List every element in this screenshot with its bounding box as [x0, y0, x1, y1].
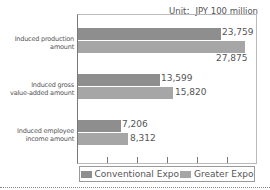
legend-swatch	[81, 171, 92, 178]
category-line: income amount	[0, 135, 74, 143]
bar	[78, 41, 245, 53]
bar	[78, 120, 121, 132]
category-line: amount	[0, 43, 74, 51]
bar	[78, 28, 221, 40]
dotted-divider	[0, 187, 270, 188]
category-label: Induced employeeincome amount	[0, 127, 74, 143]
bar	[78, 133, 128, 145]
bar	[78, 74, 160, 86]
legend-swatch	[180, 171, 191, 178]
axis-tick	[107, 157, 108, 163]
category-label: Induced grossvalue-added amount	[0, 81, 74, 97]
value-label: 23,759	[221, 27, 255, 37]
value-label: 7,206	[121, 119, 149, 129]
axis-tick	[227, 157, 228, 163]
legend-label: Conventional Expo	[95, 169, 179, 179]
legend-label: Greater Expo	[194, 169, 253, 179]
legend-item-greater: Greater Expo	[180, 169, 253, 179]
category-line: Induced production	[0, 35, 74, 43]
category-line: Induced employee	[0, 127, 74, 135]
axis-tick	[137, 157, 138, 163]
value-label: 13,599	[160, 73, 194, 83]
axis-tick	[167, 157, 168, 163]
value-label: 8,312	[129, 133, 157, 143]
bar	[78, 87, 173, 99]
legend: Conventional Expo Greater Expo	[79, 166, 255, 182]
category-label: Induced productionamount	[0, 35, 74, 51]
category-line: value-added amount	[0, 89, 74, 97]
value-label: 27,875	[215, 53, 249, 63]
category-line: Induced gross	[0, 81, 74, 89]
legend-item-conventional: Conventional Expo	[81, 169, 179, 179]
value-label: 15,820	[174, 87, 208, 97]
axis-tick	[197, 157, 198, 163]
